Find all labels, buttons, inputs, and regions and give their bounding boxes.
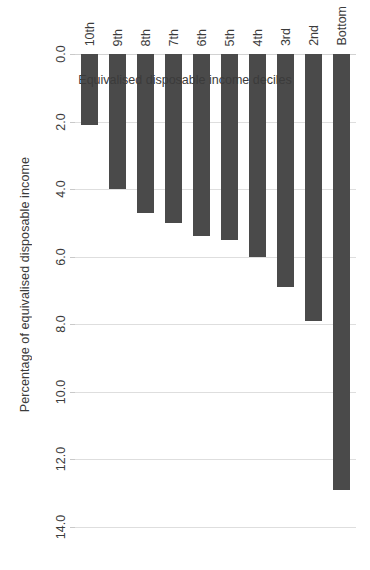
bar-row: 5th [216, 54, 244, 527]
category-axis-label: Bottom [335, 6, 349, 46]
category-axis-label: 2nd [307, 25, 321, 46]
bar-row: 6th [187, 54, 215, 527]
bar[interactable] [81, 54, 98, 125]
category-axis-title: Equivalised disposable income deciles [0, 73, 370, 87]
bar-row: 10th [75, 54, 103, 527]
bar-row: 4th [244, 54, 272, 527]
axis-tick-label: 12.0 [54, 443, 68, 475]
axis-tick-label: 10.0 [54, 376, 68, 408]
chart-figure: 0.02.04.06.08.010.012.014.0Bottom2nd3rd4… [0, 0, 370, 570]
bar[interactable] [333, 54, 350, 490]
category-axis-label: 10th [83, 22, 97, 46]
bar-row: 9th [103, 54, 131, 527]
category-axis-label: 4th [251, 29, 265, 46]
category-axis-label: 3rd [279, 28, 293, 46]
bar-row: 8th [131, 54, 159, 527]
category-axis-label: 7th [167, 29, 181, 46]
gridline [75, 527, 356, 528]
category-axis-label: 9th [111, 29, 125, 46]
category-axis-label: 6th [195, 29, 209, 46]
plot-box: 0.02.04.06.08.010.012.014.0Bottom2nd3rd4… [75, 54, 356, 527]
bar[interactable] [277, 54, 294, 287]
bar-row: 7th [159, 54, 187, 527]
bar-row: 2nd [300, 54, 328, 527]
axis-tick-label: 2.0 [54, 106, 68, 138]
value-axis-title-text: Percentage of equivalised disposable inc… [18, 157, 32, 412]
axis-tick-label: 14.0 [54, 511, 68, 543]
axis-tick-label: 8.0 [54, 308, 68, 340]
axis-tick-label: 0.0 [54, 38, 68, 70]
bar-row: 3rd [272, 54, 300, 527]
category-axis-label: 5th [223, 29, 237, 46]
bar[interactable] [305, 54, 322, 321]
axis-tick-label: 6.0 [54, 241, 68, 273]
axis-tick-label: 4.0 [54, 173, 68, 205]
chart-plot-area: 0.02.04.06.08.010.012.014.0Bottom2nd3rd4… [0, 0, 370, 570]
bar-row: Bottom [328, 54, 356, 527]
axis-tick-mark [70, 527, 75, 528]
category-axis-label: 8th [139, 29, 153, 46]
